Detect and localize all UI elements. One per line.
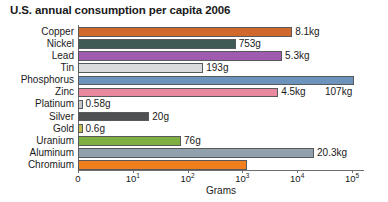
x-tick-exponent: 4 <box>301 172 305 179</box>
bar-uranium[interactable] <box>78 136 181 146</box>
bar-row: Silver20g <box>0 111 388 123</box>
x-tick-base: 10 <box>126 173 137 184</box>
bar-row: Copper8.1kg <box>0 26 388 38</box>
chart-container: U.S. annual consumption per capita 2006 … <box>0 0 388 202</box>
category-label-chromium: Chromium <box>0 159 74 171</box>
bar-row: Phosphorus107kg <box>0 74 388 86</box>
bar-row: Lead5.3kg <box>0 50 388 62</box>
x-tick-label: 101 <box>126 173 140 184</box>
bar-lead[interactable] <box>78 51 282 61</box>
x-tick-label: 102 <box>180 173 194 184</box>
category-label-silver: Silver <box>0 111 74 123</box>
x-tick-base: 10 <box>180 173 191 184</box>
x-tick-label: 104 <box>290 173 304 184</box>
x-tick-base: 10 <box>345 173 356 184</box>
category-label-copper: Copper <box>0 26 74 38</box>
bar-row: Aluminum20.3kg <box>0 147 388 159</box>
bar-value-aluminum: 20.3kg <box>317 147 347 159</box>
category-label-aluminum: Aluminum <box>0 147 74 159</box>
bar-row: Zinc4.5kg <box>0 86 388 98</box>
bar-phosphorus[interactable] <box>78 76 354 86</box>
x-tick-base: 0 <box>75 173 80 184</box>
bar-aluminum[interactable] <box>78 148 314 158</box>
bar-chromium[interactable] <box>78 160 247 170</box>
x-tick-label: 103 <box>235 173 249 184</box>
bar-value-nickel: 753g <box>239 38 261 50</box>
bar-row: Uranium76g <box>0 135 388 147</box>
x-tick-base: 10 <box>290 173 301 184</box>
x-tick-base: 10 <box>235 173 246 184</box>
bar-row: Platinum0.58g <box>0 98 388 110</box>
bar-value-gold: 0.6g <box>86 123 105 135</box>
bar-value-uranium: 76g <box>184 135 201 147</box>
bar-gold[interactable] <box>78 124 83 134</box>
bar-value-zinc: 4.5kg <box>281 86 305 98</box>
bar-value-silver: 20g <box>152 111 169 123</box>
bar-silver[interactable] <box>78 112 149 122</box>
x-axis-title: Grams <box>78 185 364 196</box>
x-tick-exponent: 5 <box>355 172 359 179</box>
bar-row: Tin193g <box>0 62 388 74</box>
category-label-lead: Lead <box>0 50 74 62</box>
bar-value-tin: 193g <box>206 62 228 74</box>
x-tick-exponent: 2 <box>191 172 195 179</box>
x-tick-exponent: 3 <box>246 172 250 179</box>
x-tick-label: 0 <box>75 173 80 184</box>
bar-zinc[interactable] <box>78 88 278 98</box>
chart-title: U.S. annual consumption per capita 2006 <box>10 4 230 16</box>
category-label-nickel: Nickel <box>0 38 74 50</box>
bar-row: Nickel753g <box>0 38 388 50</box>
category-label-platinum: Platinum <box>0 98 74 110</box>
x-tick-exponent: 1 <box>136 172 140 179</box>
bar-value-platinum: 0.58g <box>86 98 111 110</box>
bar-platinum[interactable] <box>78 100 83 110</box>
bar-copper[interactable] <box>78 27 292 37</box>
bar-row: Gold0.6g <box>0 123 388 135</box>
bar-nickel[interactable] <box>78 39 236 49</box>
bar-tin[interactable] <box>78 63 203 73</box>
bar-row: Chromium <box>0 159 388 171</box>
category-label-gold: Gold <box>0 123 74 135</box>
category-label-tin: Tin <box>0 62 74 74</box>
bar-value-lead: 5.3kg <box>285 50 309 62</box>
x-tick-label: 105 <box>345 173 359 184</box>
category-label-zinc: Zinc <box>0 86 74 98</box>
category-label-phosphorus: Phosphorus <box>0 74 74 86</box>
category-label-uranium: Uranium <box>0 135 74 147</box>
bar-value-copper: 8.1kg <box>295 26 319 38</box>
